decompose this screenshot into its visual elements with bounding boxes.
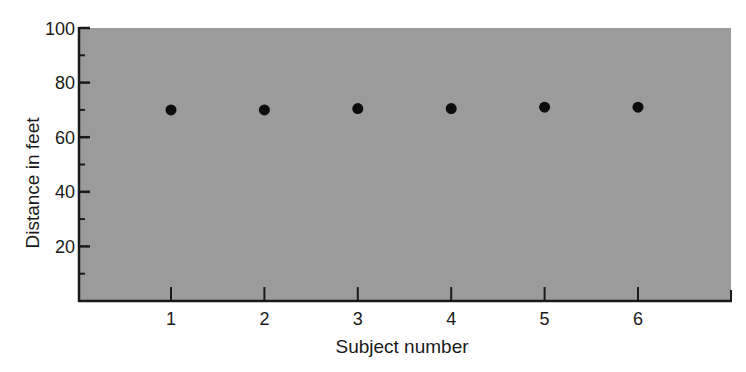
y-tick-label: 40 <box>55 182 75 202</box>
x-tick-label: 4 <box>446 309 456 329</box>
x-tick-label: 1 <box>166 309 176 329</box>
data-point <box>352 103 363 114</box>
data-point <box>633 102 644 113</box>
y-tick-label: 20 <box>55 237 75 257</box>
x-tick-label: 2 <box>259 309 269 329</box>
x-axis-title: Subject number <box>335 336 469 357</box>
x-tick-label: 6 <box>633 309 643 329</box>
y-tick-label: 60 <box>55 128 75 148</box>
x-tick-label: 3 <box>353 309 363 329</box>
data-point <box>166 104 177 115</box>
y-axis-title: Distance in feet <box>22 117 43 249</box>
x-tick-label: 5 <box>540 309 550 329</box>
y-tick-label: 100 <box>45 19 75 39</box>
y-tick-label: 80 <box>55 73 75 93</box>
plot-area <box>79 28 731 301</box>
data-point <box>446 103 457 114</box>
scatter-chart: 20406080100 123456 Distance in feet Subj… <box>0 0 746 372</box>
data-point <box>259 104 270 115</box>
data-point <box>539 102 550 113</box>
